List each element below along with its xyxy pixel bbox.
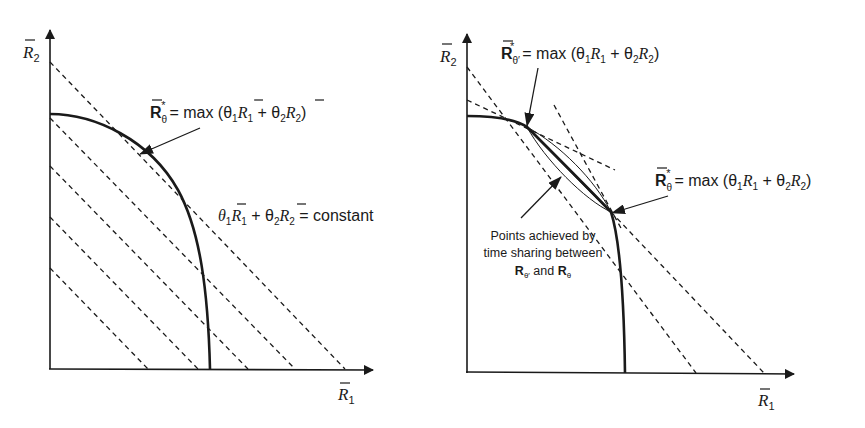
theta-arrow — [612, 196, 668, 213]
svg-text:Rθ*= max (θ1R1 + θ2R2): Rθ*= max (θ1R1 + θ2R2) — [655, 167, 811, 193]
right-x-axis — [466, 372, 794, 374]
left-x-axis — [49, 369, 373, 370]
right-x-axis-label: R1 — [757, 391, 775, 412]
left-constant-annotation: θ1R1 + θ2R2 = constant — [218, 204, 374, 227]
right-dashed-tangents — [467, 67, 764, 373]
left-capacity-boundary — [50, 114, 210, 369]
svg-text:Rθ*= max (θ1R1 + θ2R2): Rθ*= max (θ1R1 + θ2R2) — [150, 99, 306, 125]
left-panel: R2 R1 Rθ*= max (θ1R1 + θ2R2) θ1R1 + θ2R2… — [22, 30, 374, 406]
svg-text:time sharing between: time sharing between — [484, 246, 603, 260]
time-sharing-note: Points achieved by time sharing between … — [484, 229, 603, 280]
svg-text:θ1R1 + θ2R2 = constant: θ1R1 + θ2R2 = constant — [218, 207, 374, 227]
right-panel: R2 R1 Rθ′*= max (θ1R1 + θ2R2) Rθ*= max (… — [439, 34, 811, 412]
svg-text:Points achieved by: Points achieved by — [491, 229, 597, 243]
time-sharing-arrow — [521, 177, 561, 218]
theta-prime-arrow — [527, 68, 538, 126]
svg-text:Rθ′*= max (θ1R1 + θ2R2): Rθ′*= max (θ1R1 + θ2R2) — [501, 40, 659, 66]
left-y-axis-label: R2 — [22, 43, 40, 64]
right-y-axis-label: R2 — [439, 47, 457, 68]
theta-prime-max-annotation: Rθ′*= max (θ1R1 + θ2R2) — [501, 40, 659, 66]
figure-canvas: R2 R1 Rθ*= max (θ1R1 + θ2R2) θ1R1 + θ2R2… — [0, 0, 865, 428]
svg-text:Rθ′ and Rθ: Rθ′ and Rθ — [515, 264, 572, 280]
theta-max-annotation: Rθ*= max (θ1R1 + θ2R2) — [655, 167, 811, 193]
left-x-axis-label: R1 — [337, 385, 355, 406]
left-max-annotation: Rθ*= max (θ1R1 + θ2R2) — [150, 99, 324, 125]
left-annotation-arrow — [140, 128, 200, 154]
